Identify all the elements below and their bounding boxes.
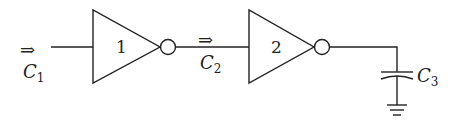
inverter-1-bubble — [161, 40, 176, 55]
inverter-2-bubble — [315, 40, 330, 55]
c2-label: C2 — [200, 52, 221, 76]
inverter-2-label: 2 — [271, 37, 282, 57]
output-wire — [330, 47, 398, 72]
c2-subscript: 2 — [214, 62, 222, 76]
inverter-1-label: 1 — [116, 37, 127, 57]
c3-subscript: 3 — [431, 75, 439, 89]
c3-label: C3 — [417, 65, 438, 89]
c1-subscript: 1 — [37, 71, 45, 85]
c1-label: C1 — [23, 61, 44, 85]
c1-arrow: ⇒ — [20, 39, 35, 60]
inverter-chain-diagram: 1 2 ⇒ C1 ⇒ C2 C3 — [0, 0, 457, 124]
c2-arrow: ⇒ — [198, 29, 213, 50]
